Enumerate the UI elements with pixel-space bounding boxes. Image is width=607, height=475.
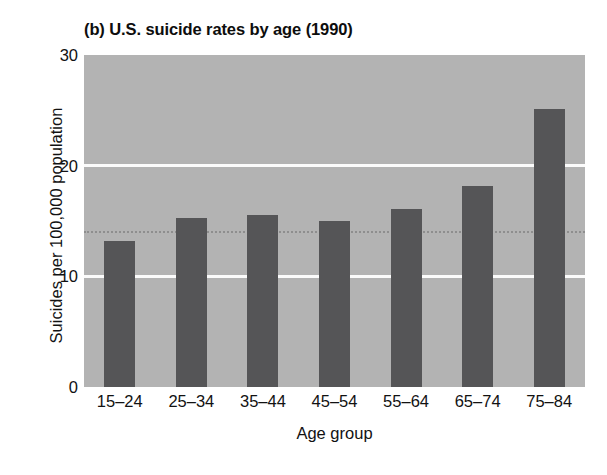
x-tick-label: 35–44 <box>240 392 286 411</box>
bar <box>247 215 278 387</box>
x-tick-label: 15–24 <box>97 392 143 411</box>
bar <box>391 209 422 387</box>
bar <box>534 109 565 387</box>
y-tick-label: 20 <box>38 156 78 175</box>
x-axis-tick-labels: 15–2425–3435–4445–5455–6465–7475–84 <box>84 392 585 418</box>
bar <box>176 218 207 387</box>
x-tick-label: 25–34 <box>168 392 214 411</box>
plot-area <box>84 55 585 387</box>
bar-series <box>84 55 585 387</box>
bar <box>319 221 350 387</box>
x-tick-label: 45–54 <box>312 392 358 411</box>
chart-figure: (b) U.S. suicide rates by age (1990) Sui… <box>0 0 607 475</box>
bar <box>462 186 493 387</box>
y-axis-tick-labels: 0102030 <box>34 55 78 387</box>
chart-title: (b) U.S. suicide rates by age (1990) <box>84 20 353 39</box>
x-tick-label: 65–74 <box>455 392 501 411</box>
x-tick-label: 75–84 <box>526 392 572 411</box>
x-axis-title: Age group <box>84 424 585 443</box>
y-tick-label: 10 <box>38 267 78 286</box>
x-tick-label: 55–64 <box>383 392 429 411</box>
y-tick-label: 30 <box>38 46 78 65</box>
bar <box>104 241 135 387</box>
y-tick-label: 0 <box>38 378 78 397</box>
